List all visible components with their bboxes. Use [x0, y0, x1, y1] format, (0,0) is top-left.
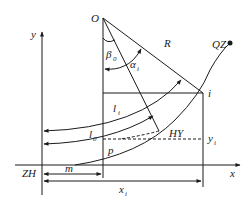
label-y-i: y i	[207, 132, 216, 147]
qz-point	[228, 41, 233, 46]
label-m: m	[65, 162, 73, 174]
svg-text:l: l	[89, 128, 92, 140]
label-zh: ZH	[22, 167, 37, 179]
label-r: R	[163, 37, 171, 49]
beta-0-arc	[105, 66, 124, 69]
label-p: p	[107, 144, 114, 156]
svg-text:0: 0	[113, 55, 117, 63]
label-l-i: l i	[113, 102, 120, 117]
svg-text:i: i	[125, 190, 127, 198]
svg-text:α: α	[130, 58, 136, 70]
label-y-axis: y	[30, 28, 36, 40]
svg-text:l: l	[113, 102, 116, 114]
label-beta-0: β 0	[105, 48, 117, 63]
svg-text:y: y	[207, 132, 213, 144]
svg-text:0: 0	[93, 135, 97, 143]
label-i: i	[208, 87, 211, 99]
label-qz: QZ	[212, 38, 227, 50]
svg-text:i: i	[137, 65, 139, 73]
label-hy: HY	[168, 127, 185, 139]
label-l-0: l 0	[89, 128, 97, 143]
svg-text:i: i	[214, 139, 216, 147]
svg-text:i: i	[118, 109, 120, 117]
transition-curve-diagram: O y x ZH R i QZ HY β 0 α i l i l 0 p m x…	[0, 0, 248, 203]
svg-text:β: β	[105, 48, 112, 60]
label-o: O	[91, 12, 99, 24]
label-x-axis: x	[229, 167, 235, 179]
radius-line	[103, 18, 203, 93]
label-alpha-i: α i	[130, 58, 139, 73]
line-o-hy	[103, 18, 159, 131]
svg-text:x: x	[118, 183, 124, 195]
label-x-i: x i	[118, 183, 127, 198]
